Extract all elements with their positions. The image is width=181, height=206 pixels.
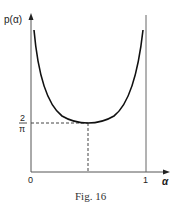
chart-figure: p(α) α 0 1 2 π Fig. 16 xyxy=(0,0,181,206)
tick-label-zero: 0 xyxy=(28,175,33,185)
x-axis-label: α xyxy=(162,176,169,187)
x-axis-arrow-icon xyxy=(163,170,170,175)
tick-label-min-denominator: π xyxy=(19,124,25,134)
figure-caption: Fig. 16 xyxy=(75,190,107,202)
y-axis-arrow-icon xyxy=(29,13,34,20)
y-axis-label: p(α) xyxy=(4,14,22,25)
density-curve xyxy=(34,30,143,123)
tick-label-one: 1 xyxy=(143,175,148,185)
tick-label-min-numerator: 2 xyxy=(20,113,25,123)
